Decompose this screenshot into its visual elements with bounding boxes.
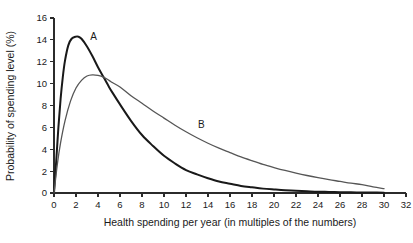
x-tick-label: 20 xyxy=(269,199,280,210)
y-tick-label: 10 xyxy=(36,78,47,89)
x-tick-label: 16 xyxy=(225,199,236,210)
x-tick-label: 8 xyxy=(139,199,144,210)
y-tick-label: 2 xyxy=(42,166,47,177)
x-tick-label: 0 xyxy=(51,199,56,210)
y-tick-label: 16 xyxy=(36,12,47,23)
x-tick-label: 4 xyxy=(95,199,100,210)
y-tick-label: 4 xyxy=(42,144,47,155)
y-tick-label: 6 xyxy=(42,122,47,133)
x-tick-label: 30 xyxy=(379,199,390,210)
series-annotations-group: AB xyxy=(90,31,205,131)
series-curve-a xyxy=(54,36,384,193)
series-curve-b xyxy=(54,75,384,193)
y-tick-label: 0 xyxy=(42,187,47,198)
x-tick-label: 6 xyxy=(117,199,122,210)
x-tick-label: 32 xyxy=(401,199,412,210)
y-tick-label: 14 xyxy=(36,34,47,45)
x-tick-label: 24 xyxy=(313,199,324,210)
x-axis-title: Health spending per year (in multiples o… xyxy=(104,216,357,228)
x-tick-label: 22 xyxy=(291,199,302,210)
distribution-chart: 02468101214161820222426283032 0246810121… xyxy=(0,0,413,243)
series-label-a: A xyxy=(90,31,97,42)
chart-container: 02468101214161820222426283032 0246810121… xyxy=(0,0,413,243)
x-tick-label: 18 xyxy=(247,199,258,210)
tick-marks-group xyxy=(50,18,406,197)
x-tick-label: 2 xyxy=(73,199,78,210)
y-tick-label: 12 xyxy=(36,56,47,67)
x-tick-label: 28 xyxy=(357,199,368,210)
series-curves-group xyxy=(54,36,384,193)
x-tick-labels-group: 02468101214161820222426283032 xyxy=(51,199,411,210)
x-tick-label: 12 xyxy=(181,199,192,210)
y-tick-label: 8 xyxy=(42,100,47,111)
plot-area: 02468101214161820222426283032 0246810121… xyxy=(4,12,411,228)
y-axis-title: Probability of spending level (%) xyxy=(4,31,16,181)
x-tick-label: 26 xyxy=(335,199,346,210)
y-tick-labels-group: 0246810121416 xyxy=(36,12,47,198)
x-tick-label: 14 xyxy=(203,199,214,210)
series-label-b: B xyxy=(198,119,205,130)
x-tick-label: 10 xyxy=(159,199,170,210)
axis-group xyxy=(54,18,406,193)
